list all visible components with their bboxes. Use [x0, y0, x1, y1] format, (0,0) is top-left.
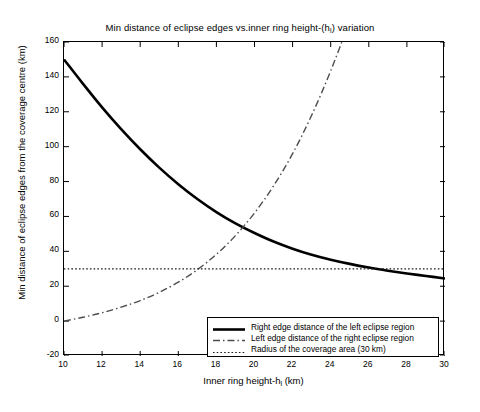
x-tick-label: 20 — [239, 359, 269, 369]
chart-legend: Right edge distance of the left eclipse … — [207, 317, 439, 357]
legend-label: Right edge distance of the left eclipse … — [251, 322, 414, 332]
x-tick-label: 26 — [353, 359, 383, 369]
plot-series-svg — [64, 42, 445, 356]
x-axis-label: Inner ring height-hl (km) — [63, 375, 444, 387]
axis-tick-marks — [64, 42, 445, 356]
x-tick-label: 16 — [162, 359, 192, 369]
x-axis-label-main: Inner ring height-h — [203, 375, 280, 386]
x-tick-label: 18 — [200, 359, 230, 369]
x-tick-label: 24 — [315, 359, 345, 369]
legend-label: Left edge distance of the right eclipse … — [251, 333, 414, 343]
legend-item[interactable]: Right edge distance of the left eclipse … — [212, 321, 434, 332]
data-series-group — [64, 42, 445, 321]
x-tick-label: 14 — [124, 359, 154, 369]
legend-line-swatch — [212, 321, 246, 332]
series-line-1 — [64, 59, 445, 278]
x-tick-label: 28 — [391, 359, 421, 369]
legend-item[interactable]: Left edge distance of the right eclipse … — [212, 332, 434, 343]
plot-area — [63, 41, 444, 355]
series-line-2 — [64, 42, 445, 321]
legend-label: Radius of the coverage area (30 km) — [251, 344, 386, 354]
legend-item[interactable]: Radius of the coverage area (30 km) — [212, 344, 434, 355]
x-axis-label-tail: (km) — [282, 375, 304, 386]
x-tick-label: 30 — [429, 359, 459, 369]
legend-line-swatch — [212, 344, 246, 355]
x-tick-label: 22 — [277, 359, 307, 369]
legend-line-swatch — [212, 332, 246, 343]
x-tick-label: 10 — [48, 359, 78, 369]
figure-canvas: Min distance of eclipse edges vs.inner r… — [0, 0, 480, 412]
x-tick-label: 12 — [86, 359, 116, 369]
